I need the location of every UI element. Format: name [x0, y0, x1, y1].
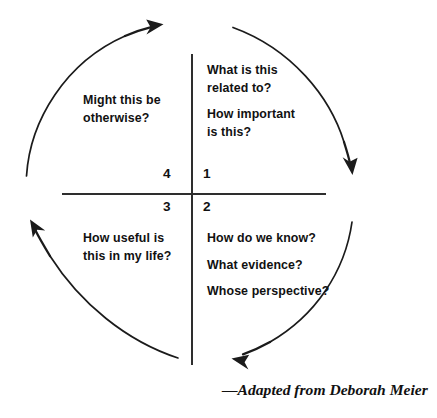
vertical-divider — [191, 54, 193, 365]
quadrant-2-line-1: How do we know? — [207, 231, 316, 245]
quadrant-2-text: How do we know? What evidence? Whose per… — [207, 230, 329, 301]
quadrant-4-text: Might this be otherwise? — [83, 92, 161, 127]
quadrant-number-1: 1 — [203, 167, 211, 181]
quadrant-3-line-1: How useful is — [83, 231, 164, 245]
quadrant-2-paragraph-1: How do we know? — [207, 230, 329, 248]
quadrant-4-line-2: otherwise? — [83, 111, 149, 125]
quadrant-number-2: 2 — [203, 200, 211, 214]
quadrant-1-line-3: How important — [207, 107, 295, 121]
quadrant-2-line-3: Whose perspective? — [207, 284, 329, 298]
quadrant-2-line-2: What evidence? — [207, 258, 303, 272]
horizontal-divider — [62, 193, 326, 195]
quadrant-number-4: 4 — [163, 167, 171, 181]
arrowhead-bottom-right — [232, 355, 250, 370]
quadrant-3-line-2: this in my life? — [83, 249, 171, 263]
quadrant-2-paragraph-3: Whose perspective? — [207, 283, 329, 301]
quadrant-number-3: 3 — [163, 200, 171, 214]
quadrant-4-paragraph: Might this be otherwise? — [83, 92, 161, 127]
quadrant-1-line-1: What is this — [207, 63, 278, 77]
attribution-text: —Adapted from Deborah Meier — [222, 381, 428, 400]
diagram-canvas: .arcline { fill: none; stroke: #1b1b1b; … — [0, 0, 437, 418]
quadrant-4-line-1: Might this be — [83, 93, 161, 107]
quadrant-1-paragraph-1: What is this related to? — [207, 62, 295, 97]
quadrant-2-paragraph-2: What evidence? — [207, 257, 329, 275]
quadrant-3-text: How useful is this in my life? — [83, 230, 171, 265]
quadrant-1-paragraph-2: How important is this? — [207, 106, 295, 141]
quadrant-1-text: What is this related to? How important i… — [207, 62, 295, 141]
quadrant-1-line-4: is this? — [207, 125, 251, 139]
quadrant-1-line-2: related to? — [207, 81, 271, 95]
quadrant-3-paragraph: How useful is this in my life? — [83, 230, 171, 265]
